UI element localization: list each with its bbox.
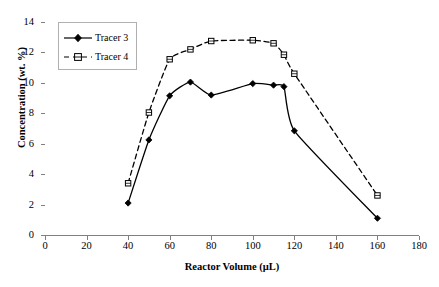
legend-label-tracer-3: Tracer 3 [93, 33, 128, 43]
y-axis-title: Concentration (wt. %) [16, 23, 27, 173]
series-line [128, 82, 377, 218]
y-tick-label: 2 [0, 200, 34, 210]
legend-symbol-dashed-square-icon [63, 51, 93, 63]
legend-label-tracer-4: Tracer 4 [93, 52, 128, 62]
x-axis-line [45, 235, 419, 236]
series-line [128, 40, 377, 195]
legend-symbol-solid-diamond-icon [63, 32, 93, 44]
x-tick-label: 120 [274, 241, 314, 251]
x-tick-label: 0 [25, 241, 65, 251]
x-tick-label: 160 [357, 241, 397, 251]
legend-item-tracer-4[interactable]: Tracer 4 [63, 47, 132, 66]
x-tick-label: 180 [399, 241, 439, 251]
legend-item-tracer-3[interactable]: Tracer 3 [63, 28, 132, 47]
data-point-marker [208, 92, 214, 98]
x-tick-label: 40 [108, 241, 148, 251]
x-tick-label: 60 [150, 241, 190, 251]
data-point-marker [250, 81, 256, 87]
y-tick-label: 0 [0, 230, 34, 240]
x-axis-title: Reactor Volume (µL) [45, 261, 419, 272]
x-tick-label: 80 [191, 241, 231, 251]
chart-figure: 02468101214 020406080100120140160180 Con… [0, 0, 439, 287]
x-tick-label: 100 [233, 241, 273, 251]
series-tracer-4 [125, 38, 380, 199]
series-tracer-3 [125, 79, 381, 221]
data-point-marker [125, 200, 131, 206]
series-layer [125, 38, 381, 222]
data-point-marker [270, 82, 276, 88]
x-tick-label: 140 [316, 241, 356, 251]
x-tick-label: 20 [67, 241, 107, 251]
data-point-marker [187, 79, 193, 85]
legend: Tracer 3 Tracer 4 [58, 22, 137, 70]
data-point-marker [146, 137, 152, 143]
